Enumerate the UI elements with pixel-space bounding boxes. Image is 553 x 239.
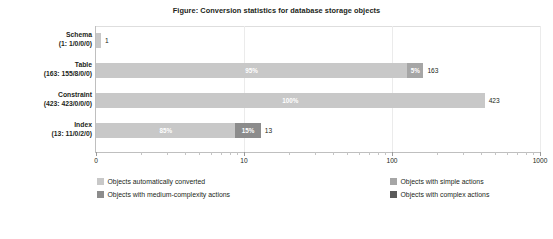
x-tick-minor [517,152,518,155]
bar-row-constraint[interactable]: 100%423 [0,93,553,108]
x-tick-minor [533,152,534,155]
legend-label: Objects with complex actions [401,191,490,198]
legend-label: Objects with medium-complexity actions [108,191,231,198]
x-tick-minor [199,152,200,155]
legend-item-1[interactable]: Objects with simple actions [390,176,484,187]
x-tick-minor [237,152,238,155]
bar-segment[interactable]: 5% [407,63,423,78]
x-tick-label: 10 [240,157,247,164]
bar-segment[interactable]: 85% [96,123,235,138]
x-tick-minor [141,152,142,155]
x-tick-label: 1000 [533,157,548,164]
x-tick-minor [437,152,438,155]
bar-segment-percent: 100% [282,97,298,104]
bar-segment[interactable]: 95% [96,63,407,78]
x-tick-minor [359,152,360,155]
legend-label: Objects with simple actions [401,178,484,185]
figure-title: Figure: Conversion statistics for databa… [0,6,553,15]
x-tick-minor [221,152,222,155]
x-tick-minor [463,152,464,155]
x-tick-minor [526,152,527,155]
legend-swatch [390,178,397,185]
legend-label: Objects automatically converted [108,178,206,185]
x-tick-minor [185,152,186,155]
legend-swatch [97,178,104,185]
bar-segment-percent: 15% [242,127,255,134]
x-tick-minor [230,152,231,155]
figure-container: Figure: Conversion statistics for databa… [0,0,553,239]
legend-item-0[interactable]: Objects automatically converted [97,176,205,187]
x-tick-minor [315,152,316,155]
legend-item-2[interactable]: Objects with medium-complexity actions [97,189,230,200]
x-axis-line [95,152,541,153]
legend-item-3[interactable]: Objects with complex actions [390,189,489,200]
x-tick-minor [211,152,212,155]
bar-segment-percent: 5% [411,67,420,74]
legend-swatch [390,191,397,198]
x-tick-major [540,152,541,156]
x-tick-label: 0 [94,157,98,164]
bar-total-label: 423 [485,93,500,108]
bar-total-label: 13 [261,123,272,138]
x-tick-minor [369,152,370,155]
x-tick-minor [167,152,168,155]
chart-legend: Objects automatically convertedObjects w… [96,176,540,204]
bar-segment[interactable]: 15% [235,123,260,138]
x-tick-major [392,152,393,156]
bar-segment-percent: 95% [245,67,258,74]
bar-row-schema[interactable]: 1 [0,33,553,48]
x-tick-minor [378,152,379,155]
bar-total-label: 163 [423,63,438,78]
bar-row-table[interactable]: 95%5%163 [0,63,553,78]
bar-segment[interactable]: 100% [96,93,485,108]
x-tick-minor [333,152,334,155]
bar-row-index[interactable]: 85%15%13 [0,123,553,138]
bar-segment-percent: 85% [159,127,172,134]
bar-total-label: 1 [101,33,109,48]
x-tick-minor [507,152,508,155]
x-tick-minor [481,152,482,155]
x-tick-minor [347,152,348,155]
x-tick-major [244,152,245,156]
x-tick-minor [495,152,496,155]
x-tick-major [96,152,97,156]
plot-top-border [95,26,541,27]
x-tick-label: 100 [386,157,397,164]
legend-swatch [97,191,104,198]
x-tick-minor [289,152,290,155]
x-tick-minor [385,152,386,155]
